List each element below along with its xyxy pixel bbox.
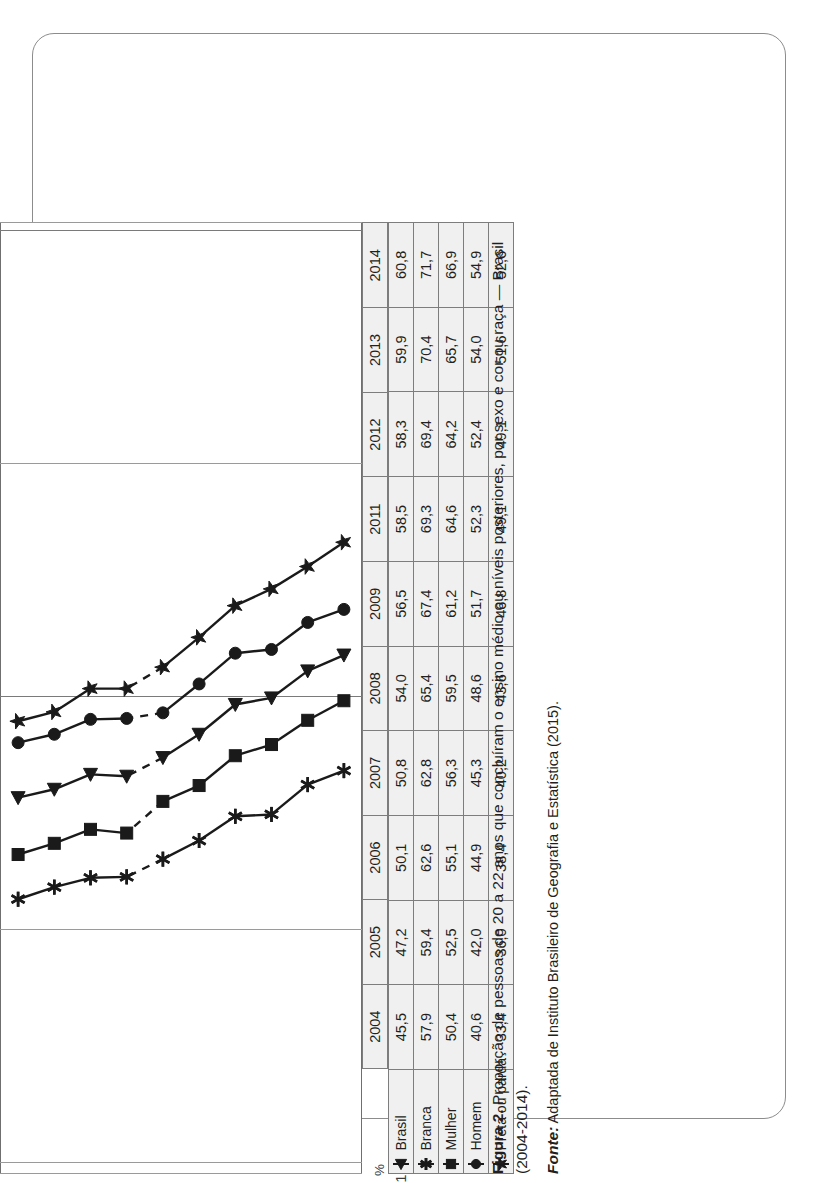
cell-homem-2009: 51,7 [464, 561, 489, 646]
data-point-asterisk-marker [193, 833, 206, 848]
cell-homem-2012: 52,4 [464, 392, 489, 477]
cell-brasil-2007: 50,8 [389, 731, 414, 816]
table-row: Branca57,959,462,662,865,467,469,369,470… [414, 223, 439, 1174]
figure-source: Fonte: Adaptada de Instituto Brasileiro … [541, 222, 565, 1174]
cell-branca-2005: 59,4 [414, 900, 439, 985]
cell-brasil-2005: 47,2 [389, 900, 414, 985]
data-point-triangle-left-marker [156, 752, 170, 765]
table-row: Homem40,642,044,945,348,651,752,352,454,… [464, 223, 489, 1174]
data-point-square-marker [48, 837, 60, 849]
data-point-square-marker [193, 780, 205, 792]
data-point-triangle-left-marker [337, 649, 351, 662]
chart-area: % 100,075,050,025,00,0 20042005200620072… [0, 222, 470, 1174]
cell-brasil-2009: 56,5 [389, 561, 414, 646]
cell-brasil-2012: 58,3 [389, 392, 414, 477]
table-corner-marker [362, 1156, 389, 1174]
year-header-2008: 2008 [363, 646, 388, 731]
table-row: Brasil45,547,250,150,854,056,558,558,359… [389, 223, 414, 1174]
cell-branca-2008: 65,4 [414, 646, 439, 731]
source-label: Fonte: [544, 1127, 561, 1174]
cell-brasil-2008: 54,0 [389, 646, 414, 731]
cell-branca-2004: 57,9 [414, 985, 439, 1070]
data-point-square-marker [12, 849, 24, 861]
figure-title: Proporção de pessoas de 20 a 22 anos que… [489, 242, 530, 1174]
data-point-asterisk-marker [337, 763, 350, 778]
data-point-star-marker [155, 659, 170, 675]
data-point-asterisk-marker [12, 892, 25, 907]
legend-asterisk-marker [414, 1156, 439, 1174]
table-row: Mulher50,452,555,156,359,561,264,664,265… [439, 223, 464, 1174]
data-point-star-marker [119, 681, 134, 697]
data-point-circle-marker [85, 713, 97, 725]
cell-mulher-2011: 64,6 [439, 477, 464, 562]
data-point-square-marker [85, 823, 97, 835]
data-point-circle-marker [48, 728, 60, 740]
series-segment [235, 814, 271, 816]
cell-brasil-2011: 58,5 [389, 477, 414, 562]
data-point-asterisk-marker [156, 852, 169, 867]
cell-homem-2013: 54,0 [464, 307, 489, 392]
cell-mulher-2013: 65,7 [439, 307, 464, 392]
data-point-triangle-left-marker [192, 728, 206, 741]
data-point-circle-marker [193, 678, 205, 690]
series-segment [163, 684, 199, 713]
data-point-circle-marker [229, 647, 241, 659]
cell-mulher-2007: 56,3 [439, 731, 464, 816]
data-point-square-marker [229, 750, 241, 762]
cell-branca-2006: 62,6 [414, 815, 439, 900]
cell-brasil-2013: 59,9 [389, 307, 414, 392]
year-header-2006: 2006 [363, 815, 388, 900]
cell-homem-2004: 40,6 [464, 985, 489, 1070]
figure-number: Figura 2. [489, 1109, 506, 1174]
row-label-brasil: Brasil [389, 1070, 414, 1156]
data-point-star-marker [336, 534, 351, 550]
legend-square-marker [439, 1156, 464, 1174]
series-lines [0, 221, 362, 1173]
figure-rotated-container: % 100,075,050,025,00,0 20042005200620072… [0, 222, 690, 1174]
cell-mulher-2014: 66,9 [439, 223, 464, 308]
legend-triangle-left-marker [389, 1156, 414, 1174]
series-segment [91, 877, 127, 878]
plot-region [0, 222, 362, 1174]
data-point-circle-marker [266, 643, 278, 655]
cell-mulher-2012: 64,2 [439, 392, 464, 477]
cell-mulher-2005: 52,5 [439, 900, 464, 985]
data-point-star-marker [300, 559, 315, 575]
cell-branca-2009: 67,4 [414, 561, 439, 646]
source-text: Adaptada de Instituto Brasileiro de Geog… [545, 701, 561, 1127]
year-header-2012: 2012 [363, 392, 388, 477]
data-point-circle-marker [338, 603, 350, 615]
table-corner-label [362, 1070, 389, 1156]
cell-branca-2013: 70,4 [414, 307, 439, 392]
cell-homem-2008: 48,6 [464, 646, 489, 731]
data-point-square-marker [266, 739, 278, 751]
data-point-triangle-left-marker [11, 792, 25, 805]
year-header-2005: 2005 [363, 900, 388, 985]
data-point-square-marker [302, 714, 314, 726]
data-point-square-marker [338, 695, 350, 707]
legend-circle-marker [464, 1156, 489, 1174]
year-header-2011: 2011 [363, 477, 388, 562]
year-header-2004: 2004 [363, 984, 388, 1069]
cell-homem-2014: 54,9 [464, 223, 489, 308]
series-segment [199, 653, 235, 684]
cell-branca-2007: 62,8 [414, 731, 439, 816]
data-point-circle-marker [121, 712, 133, 724]
cell-homem-2006: 44,9 [464, 815, 489, 900]
cell-mulher-2008: 59,5 [439, 646, 464, 731]
cell-branca-2012: 69,4 [414, 392, 439, 477]
cell-homem-2005: 42,0 [464, 900, 489, 985]
cell-homem-2007: 45,3 [464, 731, 489, 816]
cell-brasil-2006: 50,1 [389, 815, 414, 900]
figure-caption: Figura 2. Proporção de pessoas de 20 a 2… [486, 222, 565, 1174]
cell-branca-2011: 69,3 [414, 477, 439, 562]
data-point-square-marker [157, 795, 169, 807]
data-point-circle-marker [302, 616, 314, 628]
series-segment [91, 774, 127, 776]
year-header-2009: 2009 [363, 561, 388, 646]
cell-mulher-2009: 61,2 [439, 561, 464, 646]
row-label-mulher: Mulher [439, 1070, 464, 1156]
cell-mulher-2006: 55,1 [439, 815, 464, 900]
series-segment [272, 622, 308, 649]
data-point-star-marker [46, 704, 61, 720]
